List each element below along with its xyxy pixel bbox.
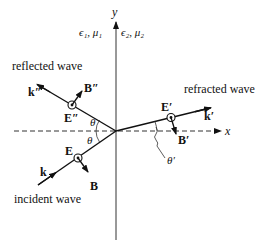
reflected-wave-label: reflected wave bbox=[12, 60, 82, 72]
y-axis-label: y bbox=[112, 6, 117, 18]
incident-angle-arc bbox=[96, 131, 100, 142]
incident-wave-label: incident wave bbox=[14, 193, 81, 205]
refracted-k-label: k′ bbox=[204, 110, 214, 122]
reflected-k-label: k″ bbox=[28, 86, 41, 98]
refracted-angle-label: θ′ bbox=[167, 155, 175, 166]
x-axis-label: x bbox=[225, 125, 230, 137]
diagram-canvas: y x ϵ₁, μ₁ ϵ₂, μ₂ reflected wave k″ B″ E… bbox=[0, 0, 260, 245]
reflected-b-label: B″ bbox=[84, 82, 99, 94]
medium-2-label: ϵ₂, μ₂ bbox=[121, 27, 144, 38]
incident-angle-label: θ bbox=[87, 135, 92, 146]
refracted-b-label: B′ bbox=[178, 134, 189, 146]
reflected-e-label: E″ bbox=[64, 112, 79, 124]
refracted-e-label: E′ bbox=[161, 101, 172, 113]
incident-b-vector bbox=[78, 158, 88, 172]
reflected-angle-label: θ bbox=[90, 117, 95, 128]
medium-1-label: ϵ₁, μ₁ bbox=[79, 27, 102, 38]
reflected-b-vector bbox=[72, 91, 82, 105]
refracted-angle-arc bbox=[155, 122, 157, 132]
incident-b-label: B bbox=[90, 180, 98, 192]
incident-e-label: E bbox=[65, 145, 73, 157]
theta-prime-leader bbox=[155, 127, 166, 158]
refracted-wave-label: refracted wave bbox=[184, 83, 255, 95]
incident-k-label: k bbox=[40, 166, 47, 178]
